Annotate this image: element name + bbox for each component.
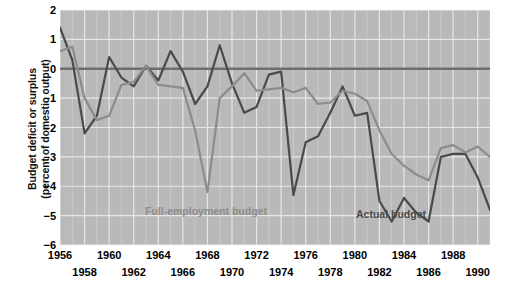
x-tick-1964: 1964 xyxy=(146,249,170,261)
x-tick-1966: 1966 xyxy=(171,266,195,278)
x-axis-tick-labels: 1956196019641968197219761980198419881958… xyxy=(0,0,512,289)
x-tick-1980: 1980 xyxy=(343,249,367,261)
x-tick-1958: 1958 xyxy=(72,266,96,278)
x-tick-1984: 1984 xyxy=(392,249,416,261)
x-tick-1956: 1956 xyxy=(48,249,72,261)
x-tick-1976: 1976 xyxy=(293,249,317,261)
x-tick-1970: 1970 xyxy=(220,266,244,278)
x-tick-1978: 1978 xyxy=(318,266,342,278)
x-tick-1988: 1988 xyxy=(441,249,465,261)
x-tick-1960: 1960 xyxy=(97,249,121,261)
x-tick-1962: 1962 xyxy=(121,266,145,278)
x-tick-1990: 1990 xyxy=(465,266,489,278)
x-tick-1982: 1982 xyxy=(367,266,391,278)
x-tick-1968: 1968 xyxy=(195,249,219,261)
x-tick-1972: 1972 xyxy=(244,249,268,261)
chart-figure: Budget deficit or surplus (percent of do… xyxy=(0,0,512,289)
x-tick-1974: 1974 xyxy=(269,266,293,278)
x-tick-1986: 1986 xyxy=(416,266,440,278)
